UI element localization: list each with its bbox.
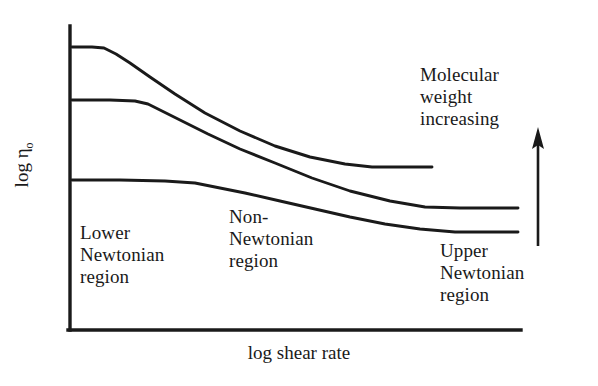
region-label-lower-newtonian: Lower Newtonian region <box>80 222 164 288</box>
figure-root: Lower Newtonian region Non- Newtonian re… <box>0 0 598 386</box>
y-axis-title-main: log η <box>11 148 32 187</box>
chart-canvas <box>0 0 598 386</box>
region-label-upper-newtonian: Upper Newtonian region <box>440 240 524 306</box>
annotation-molecular-weight-increasing: Molecular weight increasing <box>420 64 499 130</box>
plot-background <box>0 0 598 386</box>
y-axis-title: log ηo <box>11 105 37 225</box>
y-axis-title-subscript: o <box>22 142 36 148</box>
x-axis-title: log shear rate <box>0 342 598 364</box>
region-label-non-newtonian: Non- Newtonian region <box>229 206 313 272</box>
